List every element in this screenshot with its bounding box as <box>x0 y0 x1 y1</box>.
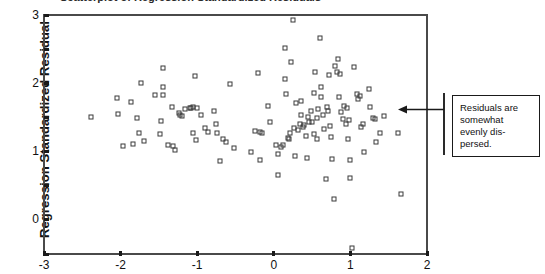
data-point <box>333 63 338 68</box>
data-point <box>172 147 177 152</box>
data-point <box>136 131 141 136</box>
data-point <box>331 197 336 202</box>
y-tick-label: 1 <box>32 144 39 158</box>
data-point <box>255 70 260 75</box>
data-point <box>89 114 94 119</box>
data-point <box>158 132 163 137</box>
data-point <box>228 82 233 87</box>
x-tick-label: -2 <box>115 258 126 272</box>
data-point <box>374 139 379 144</box>
data-point <box>377 131 382 136</box>
y-tick-mark: 2 <box>44 48 49 51</box>
data-point <box>320 112 325 117</box>
x-tick-label: -3 <box>39 258 50 272</box>
chart-title: Scatterplot of Regression Standardized R… <box>60 0 440 3</box>
y-tick-mark: -1 <box>44 150 49 153</box>
x-tick-mark <box>349 251 352 256</box>
y-tick-label: 3 <box>32 8 39 22</box>
data-point <box>348 175 353 180</box>
scatter-chart-figure: Scatterplot of Regression Standardized R… <box>0 0 545 274</box>
data-point <box>129 100 134 105</box>
y-tick-mark: 3 <box>44 14 49 17</box>
data-point <box>308 109 313 114</box>
data-point <box>191 130 196 135</box>
data-point <box>382 114 387 119</box>
data-point <box>161 85 166 90</box>
data-point <box>323 176 328 181</box>
data-point <box>199 113 204 118</box>
x-tick-label: 2 <box>424 258 431 272</box>
data-point <box>120 144 125 149</box>
data-point <box>336 94 341 99</box>
data-point <box>293 153 298 158</box>
data-point <box>368 105 373 110</box>
data-point <box>345 105 350 110</box>
data-point <box>347 157 352 162</box>
data-point <box>160 65 165 70</box>
data-point <box>330 157 335 162</box>
data-point <box>303 134 308 139</box>
data-point <box>276 173 281 178</box>
data-point <box>160 92 165 97</box>
data-point <box>282 77 287 82</box>
data-point <box>326 72 331 77</box>
data-point <box>346 118 351 123</box>
data-point <box>138 81 143 86</box>
data-point <box>362 150 367 155</box>
data-point <box>316 106 321 111</box>
axis-frame-right <box>426 14 428 255</box>
data-point <box>283 46 288 51</box>
data-point <box>312 91 317 96</box>
data-point <box>290 18 295 23</box>
y-tick-label: 2 <box>32 76 39 90</box>
data-point <box>287 137 292 142</box>
data-point <box>298 99 303 104</box>
data-point <box>141 139 146 144</box>
data-point <box>346 136 351 141</box>
data-point <box>218 159 223 164</box>
data-point <box>169 104 174 109</box>
data-point <box>193 137 198 142</box>
data-point <box>329 135 334 140</box>
annotation-callout-box: Residuals are somewhat evenly dis-persed… <box>452 95 540 157</box>
y-tick-mark: 1 <box>44 82 49 85</box>
data-point <box>289 60 294 65</box>
x-tick-label: 1 <box>347 258 354 272</box>
data-point <box>259 131 264 136</box>
data-point <box>179 114 184 119</box>
data-point <box>395 131 400 136</box>
data-point <box>352 64 357 69</box>
data-point <box>337 72 342 77</box>
data-point <box>267 119 272 124</box>
data-point <box>130 142 135 147</box>
axis-frame-top <box>43 14 428 16</box>
data-point <box>372 117 377 122</box>
annotation-rail <box>443 93 445 155</box>
axis-frame-bottom <box>43 253 428 255</box>
data-point <box>215 130 220 135</box>
data-point <box>280 143 285 148</box>
x-tick-mark <box>119 251 122 256</box>
data-point <box>318 84 323 89</box>
data-point <box>258 157 263 162</box>
annotation-text: Residuals are somewhat evenly dis-persed… <box>460 102 533 150</box>
x-tick-label: 0 <box>270 258 277 272</box>
data-point <box>314 116 319 121</box>
data-point <box>195 105 200 110</box>
data-point <box>398 192 403 197</box>
data-point <box>339 109 344 114</box>
data-point <box>360 122 365 127</box>
data-point <box>313 70 318 75</box>
data-point <box>166 143 171 148</box>
data-point <box>192 73 197 78</box>
x-tick-label: -1 <box>192 258 203 272</box>
data-point <box>116 111 121 116</box>
data-point <box>287 131 292 136</box>
x-tick-mark <box>426 251 429 256</box>
data-point <box>315 136 320 141</box>
x-tick-mark <box>196 251 199 256</box>
data-point <box>248 150 253 155</box>
y-tick-mark: -3 <box>44 218 49 221</box>
data-point <box>357 93 362 98</box>
data-point <box>299 113 304 118</box>
